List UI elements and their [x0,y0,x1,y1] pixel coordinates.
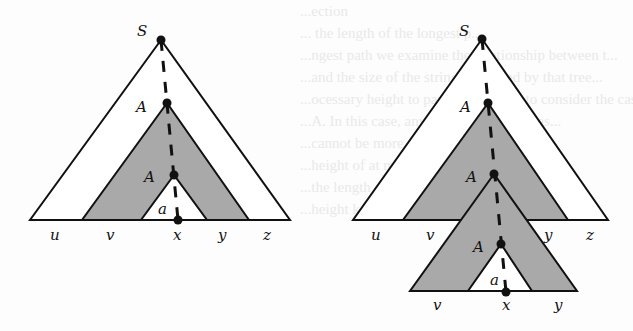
right-label-S: S [459,22,469,40]
right-node-A-3 [497,240,506,249]
right-label-u: u [371,226,381,244]
parse-tree-diagrams: S A A a u v x y z S A A A [0,0,633,331]
left-label-A-lower: A [142,168,155,186]
right-label-x: x [502,296,511,314]
right-label-A-2: A [464,168,477,186]
right-label-v-upper: v [426,226,435,244]
right-node-S [478,35,487,44]
right-parse-tree: S A A A a u v y z v x y [353,22,608,314]
left-label-a: a [158,200,167,218]
left-label-S: S [137,22,147,40]
left-node-A-upper [163,99,172,108]
right-label-A-3: A [471,238,484,256]
left-parse-tree: S A A a u v x y z [30,22,290,244]
left-label-A-upper: A [134,98,147,116]
left-node-A-lower [170,171,179,180]
left-label-z: z [262,226,271,244]
left-label-y: y [217,226,227,244]
right-label-y-lower: y [553,296,563,314]
pumping-lemma-figure: ...ection... the length of the longest p… [0,0,633,331]
right-label-z: z [585,226,594,244]
right-node-A-1 [484,99,493,108]
left-label-v: v [106,226,115,244]
right-label-A-1: A [458,98,471,116]
left-node-S [157,36,166,45]
left-label-u: u [50,226,60,244]
right-node-A-2 [490,170,499,179]
right-label-a: a [490,271,499,289]
left-label-x: x [173,226,182,244]
right-label-v-lower: v [433,296,442,314]
left-leaf-x [174,216,183,225]
right-label-y-upper: y [543,226,553,244]
